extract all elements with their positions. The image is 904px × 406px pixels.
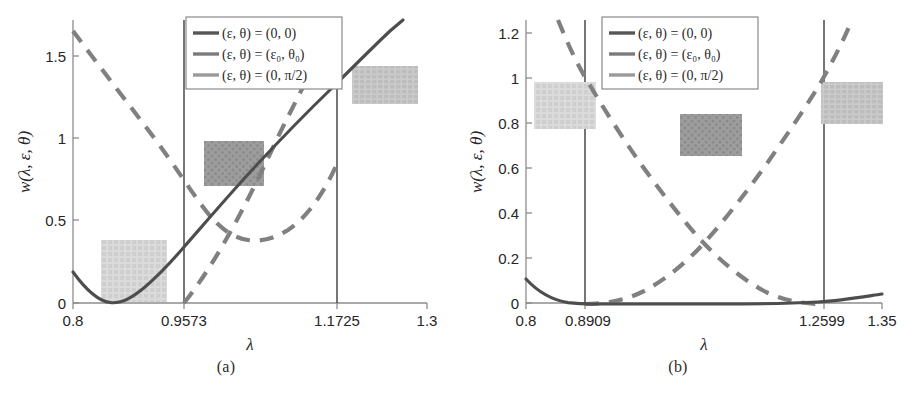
panel-b: 0 0.2 0.4 0.6 0.8 1 1.2 0.8 0.8909 1.259… [452,0,904,406]
panel-b-xtick-1: 0.8909 [565,312,611,329]
panel-b-y-ticks [526,33,532,303]
panel-b-ytick-4: 0.8 [498,115,519,132]
panel-a-ytick-1: 0.5 [45,212,66,229]
panel-b-xtick-2: 1.2599 [799,312,845,329]
panel-a-ylabel: w(λ, ε, θ) [15,131,34,193]
panel-b-xlabel: λ [699,335,707,354]
panel-b-legend-label-2: (ε, θ) = (0, π/2) [638,68,723,84]
panel-a-legend-label-0: (ε, θ) = (0, 0) [222,26,296,42]
panel-b-inset-lattice-rect [821,82,883,124]
panel-b-ytick-2: 0.4 [498,205,519,222]
panel-a-legend-label-1: (ε, θ) = (ε₀, θ₀) [222,47,305,63]
panel-a-xtick-1: 0.9573 [161,312,207,329]
panel-a-xlabel: λ [245,335,253,354]
panel-b-subcaption: (b) [452,358,904,376]
panel-b-legend-label-1: (ε, θ) = (ε₀, θ₀) [638,47,721,63]
panel-a-subcaption: (a) [0,358,452,376]
panel-a-ytick-2: 1 [58,130,66,147]
panel-b-ytick-6: 1.2 [498,25,519,42]
panel-b-inset-lattice-hex [680,114,742,156]
panel-b-ytick-1: 0.2 [498,250,519,267]
panel-a-inset-lattice-rect [352,66,418,104]
panel-a-ytick-0: 0 [58,295,66,312]
panel-b-ytick-0: 0 [511,295,519,312]
panel-a: 0 0.5 1 1.5 0.8 0.9573 1.1725 1.3 λ w(λ,… [0,0,452,406]
panel-b-ylabel: w(λ, ε, θ) [467,131,486,193]
panel-a-plot: 0 0.5 1 1.5 0.8 0.9573 1.1725 1.3 λ w(λ,… [0,0,452,360]
panel-b-legend-label-0: (ε, θ) = (0, 0) [638,26,712,42]
panel-b-xtick-3: 1.35 [867,312,896,329]
panel-a-xtick-3: 1.3 [417,312,438,329]
panel-a-inset-lattice-square [101,240,167,302]
panel-a-legend: (ε, θ) = (0, 0) (ε, θ) = (ε₀, θ₀) (ε, θ)… [186,17,342,89]
panel-a-y-ticks [73,56,79,303]
panel-a-x-ticks [73,303,427,309]
panel-b-ytick-5: 1 [511,70,519,87]
panel-a-ytick-3: 1.5 [45,48,66,65]
figure-container: 0 0.5 1 1.5 0.8 0.9573 1.1725 1.3 λ w(λ,… [0,0,904,406]
panel-a-xtick-2: 1.1725 [314,312,360,329]
panel-b-legend: (ε, θ) = (0, 0) (ε, θ) = (ε₀, θ₀) (ε, θ)… [602,17,758,89]
panel-b-plot: 0 0.2 0.4 0.6 0.8 1 1.2 0.8 0.8909 1.259… [452,0,904,360]
panel-a-xtick-0: 0.8 [63,312,84,329]
panel-b-inset-lattice-square [534,82,596,129]
panel-b-ytick-3: 0.6 [498,160,519,177]
panel-a-legend-label-2: (ε, θ) = (0, π/2) [222,68,307,84]
panel-a-inset-lattice-hex [204,141,264,186]
panel-b-series-0-0 [526,279,882,304]
panel-b-xtick-0: 0.8 [516,312,537,329]
